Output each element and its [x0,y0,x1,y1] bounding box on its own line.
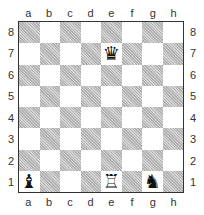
file-label-a-bottom: a [18,196,39,208]
square-a6[interactable] [19,65,40,86]
rank-label-4-right: 4 [188,112,198,124]
file-label-g-top: g [143,7,164,19]
square-e7[interactable]: ♛ [101,43,122,64]
square-e6[interactable] [101,65,122,86]
rank-label-4-left: 4 [6,112,16,124]
square-f5[interactable] [122,86,143,107]
square-g6[interactable] [142,65,163,86]
file-label-e-top: e [101,7,122,19]
black-queen-icon[interactable]: ♛ [103,44,120,63]
file-label-c-bottom: c [60,196,81,208]
square-b8[interactable] [40,22,61,43]
white-rook-icon[interactable]: ♖ [103,172,120,191]
square-g8[interactable] [142,22,163,43]
square-h6[interactable] [163,65,184,86]
square-f8[interactable] [122,22,143,43]
square-f4[interactable] [122,107,143,128]
square-b5[interactable] [40,86,61,107]
square-h5[interactable] [163,86,184,107]
file-label-a-top: a [18,7,39,19]
rank-label-7-left: 7 [6,47,16,59]
file-label-b-bottom: b [39,196,60,208]
square-b4[interactable] [40,107,61,128]
square-c7[interactable] [60,43,81,64]
rank-label-5-left: 5 [6,90,16,102]
square-d2[interactable] [81,150,102,171]
square-d7[interactable] [81,43,102,64]
square-h4[interactable] [163,107,184,128]
square-c5[interactable] [60,86,81,107]
square-d4[interactable] [81,107,102,128]
square-e5[interactable] [101,86,122,107]
square-a7[interactable] [19,43,40,64]
square-d6[interactable] [81,65,102,86]
square-b2[interactable] [40,150,61,171]
square-a8[interactable] [19,22,40,43]
square-e8[interactable] [101,22,122,43]
square-d5[interactable] [81,86,102,107]
file-label-e-bottom: e [101,196,122,208]
square-b1[interactable] [40,171,61,192]
square-f7[interactable] [122,43,143,64]
square-d1[interactable] [81,171,102,192]
black-bishop-icon[interactable]: ♝ [21,172,38,191]
square-e3[interactable] [101,128,122,149]
file-label-c-top: c [60,7,81,19]
file-label-d-top: d [80,7,101,19]
square-a4[interactable] [19,107,40,128]
rank-label-5-right: 5 [188,90,198,102]
file-label-d-bottom: d [80,196,101,208]
square-b7[interactable] [40,43,61,64]
square-e1[interactable]: ♖ [101,171,122,192]
square-a5[interactable] [19,86,40,107]
square-e4[interactable] [101,107,122,128]
square-d3[interactable] [81,128,102,149]
square-a2[interactable] [19,150,40,171]
rank-label-7-right: 7 [188,47,198,59]
square-h1[interactable] [163,171,184,192]
square-c6[interactable] [60,65,81,86]
square-g2[interactable] [142,150,163,171]
file-label-b-top: b [39,7,60,19]
square-g7[interactable] [142,43,163,64]
square-b6[interactable] [40,65,61,86]
square-f3[interactable] [122,128,143,149]
rank-label-3-right: 3 [188,133,198,145]
square-h8[interactable] [163,22,184,43]
square-g1[interactable]: ♞ [142,171,163,192]
square-f1[interactable] [122,171,143,192]
square-g5[interactable] [142,86,163,107]
rank-label-8-left: 8 [6,26,16,38]
rank-label-6-right: 6 [188,69,198,81]
square-f2[interactable] [122,150,143,171]
square-f6[interactable] [122,65,143,86]
rank-label-1-right: 1 [188,176,198,188]
rank-label-6-left: 6 [6,69,16,81]
square-h3[interactable] [163,128,184,149]
chess-board: ♛♝♖♞ [18,21,184,193]
file-label-f-bottom: f [122,196,143,208]
black-knight-icon[interactable]: ♞ [144,172,161,191]
square-a1[interactable]: ♝ [19,171,40,192]
file-label-g-bottom: g [143,196,164,208]
square-h7[interactable] [163,43,184,64]
square-d8[interactable] [81,22,102,43]
square-h2[interactable] [163,150,184,171]
square-a3[interactable] [19,128,40,149]
square-c3[interactable] [60,128,81,149]
rank-label-1-left: 1 [6,176,16,188]
rank-label-2-left: 2 [6,155,16,167]
square-c1[interactable] [60,171,81,192]
square-c2[interactable] [60,150,81,171]
square-g4[interactable] [142,107,163,128]
square-b3[interactable] [40,128,61,149]
file-label-h-top: h [163,7,184,19]
square-g3[interactable] [142,128,163,149]
square-c8[interactable] [60,22,81,43]
rank-label-8-right: 8 [188,26,198,38]
square-e2[interactable] [101,150,122,171]
file-label-h-bottom: h [163,196,184,208]
rank-label-2-right: 2 [188,155,198,167]
square-c4[interactable] [60,107,81,128]
file-label-f-top: f [122,7,143,19]
